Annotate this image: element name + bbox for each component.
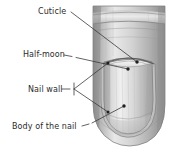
endpoint-dot-body-of-the-nail: [122, 104, 125, 107]
leader-line-nail-wall-lower: [74, 89, 108, 112]
leader-endpoint-dots: [107, 60, 139, 113]
endpoint-dot-nail-wall-lower: [107, 111, 110, 114]
label-nail-wall: Nail wall: [28, 85, 63, 94]
label-cuticle: Cuticle: [38, 7, 66, 16]
leader-line-body-of-the-nail: [92, 106, 124, 123]
leader-line-cuticle: [71, 12, 137, 62]
leader-line-nail-wall-upper: [74, 63, 108, 89]
endpoint-dot-nail-wall-upper: [107, 62, 110, 65]
endpoint-dot-cuticle: [135, 60, 138, 63]
label-half-moon: Half-moon: [23, 50, 65, 59]
fingernail-anatomy-figure: Cuticle Half-moon Nail wall Body of the …: [0, 0, 173, 154]
leader-dash-half-moon: [64, 55, 72, 57]
endpoint-dot-half-moon: [126, 67, 129, 70]
leader-dash-body-of-the-nail: [82, 124, 89, 126]
label-body-of-the-nail: Body of the nail: [12, 122, 77, 131]
